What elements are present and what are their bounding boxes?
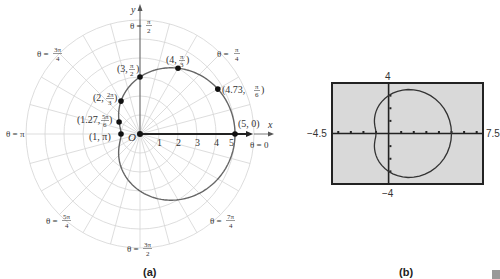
radial-tick-labels: 1 2 3 4 5: [157, 137, 234, 148]
label-1.27-5pi6: (1.27, 5π 6 ): [77, 113, 112, 129]
point-5-0: [232, 131, 238, 137]
tick-4: 4: [214, 137, 219, 148]
svg-text:θ =: θ =: [217, 49, 229, 59]
svg-text:): ): [114, 92, 117, 104]
angle-label-3pi2: θ = 3π 2: [127, 241, 152, 258]
tick-2: 2: [176, 137, 181, 148]
svg-text:θ =: θ =: [210, 216, 222, 226]
svg-text:θ =: θ =: [37, 49, 49, 59]
origin-point: [137, 131, 143, 137]
angle-label-3pi4: θ = 3π 4: [37, 46, 62, 63]
svg-text:θ =: θ =: [130, 21, 142, 31]
svg-text:2: 2: [146, 250, 150, 258]
svg-text:θ =: θ =: [46, 216, 58, 226]
svg-text:6: 6: [255, 91, 259, 99]
angle-label-0: θ = 0: [250, 140, 269, 150]
svg-text:2: 2: [147, 27, 151, 35]
svg-text:π: π: [130, 62, 134, 70]
caption-a: (a): [143, 266, 157, 278]
label-3-pi2: (3, π 2 ): [117, 62, 139, 78]
svg-text:(4.73,: (4.73,: [222, 84, 245, 96]
svg-text:): ): [186, 54, 189, 66]
svg-text:3π: 3π: [144, 241, 152, 249]
calc-xmin-label: −4.5: [307, 128, 327, 139]
calc-xmax-label: 7.5: [486, 128, 500, 139]
svg-text:6: 6: [103, 121, 107, 129]
svg-text:7π: 7π: [227, 213, 235, 221]
caption-b: (b): [399, 266, 413, 278]
svg-text:2: 2: [130, 70, 134, 78]
svg-text:(2,: (2,: [93, 92, 104, 104]
angle-label-pi: θ = π: [6, 129, 25, 139]
figure: y x 1 2 3 4 5 O (5, 0) (4.73, π: [0, 0, 500, 279]
point-3-pi2: [137, 74, 143, 80]
point-2-2pi3: [118, 98, 124, 104]
label-4.73-pi6: (4.73, π 6 ): [222, 83, 264, 99]
svg-text:(1.27,: (1.27,: [77, 114, 100, 126]
label-1-pi: (1, π): [89, 131, 111, 143]
calculator-screen: [332, 83, 483, 184]
svg-text:4: 4: [56, 55, 60, 63]
tick-3: 3: [195, 137, 200, 148]
calc-ymax-label: 4: [385, 71, 391, 82]
svg-text:): ): [109, 114, 112, 126]
svg-text:3: 3: [180, 61, 184, 69]
svg-text:5π: 5π: [63, 213, 71, 221]
svg-text:4: 4: [229, 222, 233, 230]
label-5-0: (5, 0): [238, 118, 260, 130]
tick-1: 1: [157, 137, 162, 148]
angle-label-pi2: θ = π 2: [130, 18, 152, 35]
svg-text:3: 3: [108, 99, 112, 107]
angle-label-5pi4: θ = 5π 4: [46, 213, 71, 230]
svg-text:4: 4: [65, 222, 69, 230]
y-axis-label: y: [130, 4, 136, 15]
point-1-pi: [118, 131, 124, 137]
angle-label-7pi4: θ = 7π 4: [210, 213, 235, 230]
svg-text:(4,: (4,: [166, 54, 177, 66]
svg-text:π: π: [235, 46, 239, 54]
end-marker: [492, 270, 500, 279]
point-4.73-pi6: [215, 86, 221, 92]
svg-text:): ): [136, 63, 139, 75]
svg-text:4: 4: [235, 55, 239, 63]
svg-text:(3,: (3,: [117, 63, 128, 75]
calc-ymin-label: −4: [382, 188, 394, 199]
svg-text:): ): [261, 84, 264, 96]
svg-text:π: π: [147, 18, 151, 26]
point-1.27-5pi6: [116, 119, 122, 125]
angle-label-pi4: θ = π 4: [217, 46, 240, 63]
svg-text:3π: 3π: [54, 46, 62, 54]
origin-label: O: [128, 131, 136, 143]
x-axis-label: x: [267, 119, 273, 130]
svg-text:θ =: θ =: [127, 244, 139, 254]
svg-text:π: π: [255, 83, 259, 91]
svg-text:π: π: [180, 53, 184, 61]
